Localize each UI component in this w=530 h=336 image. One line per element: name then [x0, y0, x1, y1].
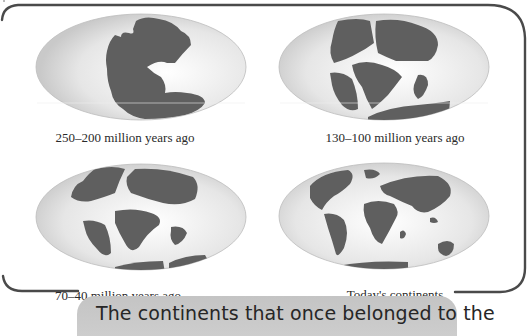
continental-drift-map: [35, 163, 247, 271]
figure-caption-text: The continents that once belonged to the: [96, 302, 495, 324]
panel-caption: 250–200 million years ago: [15, 130, 235, 146]
early-breakup-map: [278, 13, 490, 121]
panel-caption: 130–100 million years ago: [285, 130, 505, 146]
pangaea-map: [35, 13, 247, 121]
modern-world-map: [278, 162, 490, 270]
